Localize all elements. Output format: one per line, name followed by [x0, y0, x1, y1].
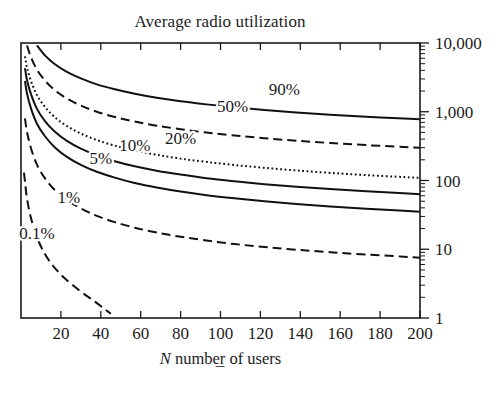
y-axis-tick-labels: 1101001,00010,000: [435, 34, 482, 328]
curve-group: [24, 45, 420, 313]
curve-label-90pct: 90%: [269, 80, 300, 99]
x-tick-label-80: 80: [172, 324, 189, 343]
y-tick-label-10000: 10,000: [435, 34, 482, 53]
curve-label-5pct: 5%: [89, 149, 112, 168]
chart-canvas: 20406080100120140160180200 1101001,00010…: [0, 0, 502, 394]
x-tick-label-40: 40: [92, 324, 109, 343]
curve-label-20pct: 20%: [165, 129, 196, 148]
footer-mark: –: [0, 355, 440, 375]
y-tick-label-100: 100: [435, 172, 461, 191]
x-tick-label-160: 160: [327, 324, 353, 343]
x-axis-ticks-group: [61, 43, 420, 318]
x-tick-label-60: 60: [132, 324, 149, 343]
figure-container: Average radio utilization 20406080100120…: [0, 0, 502, 394]
curve-label-50pct: 50%: [217, 97, 248, 116]
curve-label-10pct: 10%: [119, 136, 150, 155]
curve-label-0-1pct: 0.1%: [19, 224, 54, 243]
x-tick-label-100: 100: [208, 324, 234, 343]
x-tick-label-180: 180: [367, 324, 393, 343]
x-tick-label-200: 200: [407, 324, 433, 343]
x-tick-label-140: 140: [288, 324, 314, 343]
y-tick-label-1: 1: [435, 309, 444, 328]
x-tick-label-20: 20: [52, 324, 69, 343]
x-axis-tick-labels: 20406080100120140160180200: [52, 324, 432, 343]
y-tick-label-10: 10: [435, 240, 452, 259]
y-tick-label-1000: 1,000: [435, 103, 473, 122]
x-tick-label-120: 120: [248, 324, 274, 343]
curve-labels-group: 90%50%20%10%5%1%0.1%: [19, 80, 300, 244]
y-axis-ticks-group: [420, 43, 429, 318]
curve-1pct: [25, 118, 420, 257]
curve-label-1pct: 1%: [58, 188, 81, 207]
